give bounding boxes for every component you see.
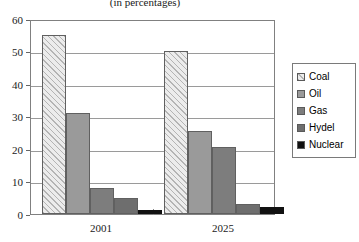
bar-2001-oil <box>66 113 90 214</box>
bar-2025-coal <box>164 51 188 214</box>
y-tick-label-10: 10 <box>12 177 23 188</box>
y-tick-label-40: 40 <box>12 80 23 91</box>
legend-label-nuclear: Nuclear <box>309 139 343 150</box>
legend-label-hydel: Hydel <box>309 122 335 133</box>
y-tick-label-60: 60 <box>12 15 23 26</box>
legend-item-nuclear: Nuclear <box>297 136 352 153</box>
x-tick-label-2025: 2025 <box>193 222 253 234</box>
bar-2001-coal <box>42 35 66 214</box>
legend-label-oil: Oil <box>309 88 321 99</box>
bar-2001-hydel <box>114 198 138 214</box>
bar-2025-gas <box>212 147 236 214</box>
gridline-50 <box>31 53 274 54</box>
legend-swatch-oil-icon <box>297 90 305 98</box>
bar-2001-gas <box>90 188 114 214</box>
legend-swatch-hydel-icon <box>297 124 305 132</box>
legend-item-coal: Coal <box>297 68 352 85</box>
legend-swatch-gas-icon <box>297 107 305 115</box>
legend-label-coal: Coal <box>309 71 330 82</box>
y-tick-mark-0 <box>26 215 30 216</box>
gridline-40 <box>31 86 274 87</box>
legend-item-hydel: Hydel <box>297 119 352 136</box>
bar-2001-nuclear <box>138 210 162 214</box>
bar-2025-hydel <box>236 204 260 214</box>
y-tick-label-50: 50 <box>12 47 23 58</box>
x-tick-label-2001: 2001 <box>71 222 131 234</box>
legend-swatch-nuclear-icon <box>297 141 305 149</box>
y-axis: 60 50 40 30 20 10 0 <box>0 0 30 242</box>
y-tick-label-30: 30 <box>12 112 23 123</box>
legend-label-gas: Gas <box>309 105 327 116</box>
chart-title: (in percentages) <box>0 0 290 8</box>
bar-2025-oil <box>188 131 212 214</box>
y-tick-label-20: 20 <box>12 145 23 156</box>
legend-item-oil: Oil <box>297 85 352 102</box>
plot-area <box>30 20 275 215</box>
y-tick-label-0: 0 <box>18 210 24 221</box>
chart-legend: Coal Oil Gas Hydel Nuclear <box>292 63 356 158</box>
bar-2025-nuclear <box>260 207 284 214</box>
bar-chart: (in percentages) 60 50 40 30 20 10 0 <box>0 0 359 242</box>
legend-swatch-coal-icon <box>297 73 305 81</box>
legend-item-gas: Gas <box>297 102 352 119</box>
